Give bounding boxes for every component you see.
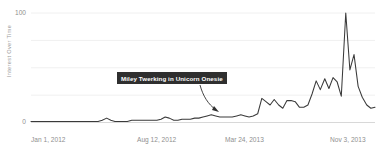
x-tick-jan-1-2012: Jan 1, 2012 (31, 136, 65, 143)
x-tick-nov-3-2013: Nov 3, 2013 (330, 136, 366, 143)
x-tick-aug-12-2012: Aug 12, 2012 (137, 136, 176, 143)
x-tick-mar-24-2013: Mar 24, 2013 (225, 136, 264, 143)
annotation-arrow (200, 85, 216, 110)
y-tick-100: 100 (4, 9, 26, 16)
data-line (31, 13, 375, 121)
interest-over-time-chart: Interest Over Time 100 0 Jan 1, 2012 Aug… (0, 0, 383, 153)
y-tick-0: 0 (4, 118, 26, 125)
annotation-arrowhead (212, 106, 219, 112)
y-axis-label: Interest Over Time (6, 11, 12, 91)
annotation-label-miley-twerking: Miley Twerking in Unicorn Onesie (117, 72, 227, 84)
